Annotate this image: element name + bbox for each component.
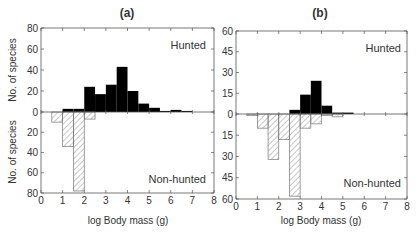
panel-b-x-axis-title: log Body mass (g) — [281, 215, 362, 226]
hunted-bar — [84, 87, 95, 112]
panel-a-upper-y-axis-title: No. of species — [7, 38, 18, 101]
y-tick-label-upper: 40 — [27, 65, 39, 76]
y-tick-label-lower: 20 — [27, 127, 39, 138]
x-tick-label: 0 — [38, 195, 44, 206]
y-tick-label-upper: 80 — [27, 23, 39, 34]
y-tick-label-upper: 0 — [32, 107, 38, 118]
x-tick-label: 8 — [404, 201, 410, 212]
y-tick-label-lower: 80 — [27, 188, 39, 199]
panel-b-hunted-bars — [289, 81, 353, 114]
nonhunted-bar — [268, 114, 279, 159]
hunted-bar — [95, 94, 106, 112]
y-tick-label-upper: 45 — [222, 46, 234, 57]
y-tick-label-lower: 60 — [27, 167, 39, 178]
panel-a: (a) 01234567802040608020406080 Hunted No… — [7, 6, 217, 226]
y-tick-label-upper: 60 — [27, 44, 39, 55]
panel-a-hunted-label: Hunted — [171, 39, 206, 51]
hunted-bar — [138, 104, 149, 112]
hunted-bar — [322, 106, 333, 114]
hunted-bar — [311, 81, 322, 114]
hunted-bar — [117, 67, 128, 112]
nonhunted-bar — [300, 114, 311, 128]
nonhunted-bar — [289, 114, 300, 196]
hunted-bar — [289, 110, 300, 114]
panel-a-x-axis-title: log Body mass (g) — [88, 215, 169, 226]
x-tick-label: 1 — [60, 195, 66, 206]
hunted-bar — [128, 91, 139, 112]
x-tick-label: 2 — [276, 201, 282, 212]
x-tick-label: 5 — [340, 201, 346, 212]
y-tick-label-upper: 30 — [222, 67, 234, 78]
y-tick-label-upper: 0 — [227, 109, 233, 120]
y-tick-label-lower: 45 — [222, 172, 234, 183]
panel-b-nonhunted-bars — [247, 114, 343, 196]
x-tick-label: 1 — [255, 201, 261, 212]
panel-b-nonhunted-label: Non-hunted — [344, 177, 402, 189]
nonhunted-bar — [332, 114, 343, 117]
y-tick-label-lower: 15 — [222, 130, 234, 141]
panel-b-hunted-label: Hunted — [366, 42, 401, 54]
x-tick-label: 3 — [103, 195, 109, 206]
nonhunted-bar — [63, 112, 74, 146]
y-tick-label-upper: 15 — [222, 88, 234, 99]
nonhunted-bar — [73, 112, 84, 191]
y-tick-label-lower: 30 — [222, 151, 234, 162]
panel-b-title: (b) — [312, 6, 327, 20]
x-tick-label: 5 — [146, 195, 152, 206]
hunted-bar — [73, 109, 84, 112]
panel-a-hunted-bars — [63, 67, 193, 112]
x-tick-label: 6 — [361, 201, 367, 212]
x-tick-label: 7 — [383, 201, 389, 212]
y-tick-label-lower: 40 — [27, 147, 39, 158]
histogram-figure: (a) 01234567802040608020406080 Hunted No… — [0, 0, 419, 242]
x-tick-label: 0 — [233, 201, 239, 212]
x-tick-label: 4 — [319, 201, 325, 212]
x-tick-label: 8 — [211, 195, 217, 206]
nonhunted-bar — [52, 112, 63, 122]
x-tick-label: 3 — [297, 201, 303, 212]
panel-a-lower-y-axis-title: No. of species — [7, 120, 18, 183]
hunted-bar — [300, 95, 311, 114]
x-tick-label: 2 — [81, 195, 87, 206]
y-tick-label-upper: 20 — [27, 86, 39, 97]
hunted-bar — [149, 108, 160, 112]
panel-a-title: (a) — [120, 6, 135, 20]
hunted-bar — [106, 85, 117, 112]
x-tick-label: 4 — [125, 195, 131, 206]
y-tick-label-lower: 60 — [222, 194, 234, 205]
figure: (a) 01234567802040608020406080 Hunted No… — [0, 0, 419, 242]
nonhunted-bar — [257, 114, 268, 128]
x-tick-label: 7 — [190, 195, 196, 206]
panel-a-nonhunted-bars — [52, 112, 95, 191]
panel-a-nonhunted-label: Non-hunted — [149, 173, 207, 185]
nonhunted-bar — [311, 114, 322, 124]
y-tick-label-upper: 60 — [222, 26, 234, 37]
nonhunted-bar — [84, 112, 95, 119]
nonhunted-bar — [279, 114, 290, 140]
panel-b: (b) 01234567801530456015304560 Hunted No… — [222, 6, 410, 226]
x-tick-label: 6 — [168, 195, 174, 206]
hunted-bar — [63, 109, 74, 112]
